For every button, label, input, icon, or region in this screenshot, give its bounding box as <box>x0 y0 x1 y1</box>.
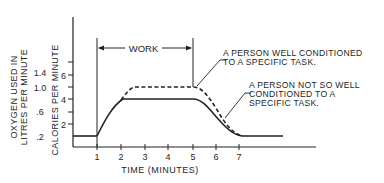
x-tick-6: 6 <box>213 152 218 162</box>
cal-tick-2: 2 <box>61 120 66 130</box>
calories-axis-title: CALORIES PER MINUTE <box>50 44 60 155</box>
oxygen-tick-labels: .2 .6 1.0 1.4 <box>34 68 47 142</box>
x-axis-label: TIME (MINUTES) <box>121 165 199 175</box>
oxygen-axis-title-line2: LITRES PER MINUTE <box>19 49 29 145</box>
x-tick-4: 4 <box>165 152 170 162</box>
oxygen-axis-title-line1: OXYGEN USED IN <box>9 55 19 138</box>
annotation-1-line-2: TO A SPECIFIC TASK. <box>223 57 316 67</box>
oxy-tick-0.6: .6 <box>36 107 44 117</box>
annotation-2-line-3: SPECIFIC TASK. <box>249 98 319 108</box>
work-label: WORK <box>129 43 159 54</box>
leader-line-1 <box>197 60 226 86</box>
x-tick-1: 1 <box>94 152 99 162</box>
x-tick-7: 7 <box>236 152 241 162</box>
chart: 1 2 3 4 5 6 7 TIME (MINUTES) 2 4 6 .2 .6… <box>0 0 384 183</box>
x-tick-labels: 1 2 3 4 5 6 7 <box>94 152 241 162</box>
x-tick-3: 3 <box>142 152 147 162</box>
work-interval <box>97 38 193 147</box>
oxy-tick-0.2: .2 <box>36 132 44 142</box>
calories-tick-labels: 2 4 6 <box>61 71 66 130</box>
annotation-1: A PERSON WELL CONDITIONED TO A SPECIFIC … <box>223 48 362 67</box>
oxy-tick-1.0: 1.0 <box>34 83 47 93</box>
oxy-tick-1.4: 1.4 <box>34 68 47 78</box>
x-tick-5: 5 <box>190 152 195 162</box>
leader-line-2 <box>225 93 251 118</box>
series-well-conditioned <box>121 87 243 136</box>
x-tick-2: 2 <box>118 152 123 162</box>
cal-tick-4: 4 <box>61 95 66 105</box>
annotation-2: A PERSON NOT SO WELL CONDITIONED TO A SP… <box>249 80 360 108</box>
y-ticks <box>68 62 73 124</box>
cal-tick-6: 6 <box>61 71 66 81</box>
